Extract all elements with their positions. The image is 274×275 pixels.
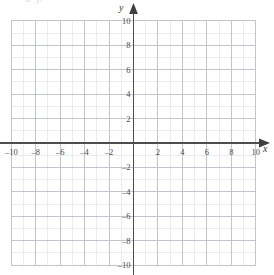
coordinate-plane: a p x y –10–8–6–4–2246810108642–2–4–6–8–…	[0, 0, 274, 275]
axis-lines	[0, 3, 270, 275]
y-axis-label: y	[119, 2, 123, 13]
x-axis-label: x	[263, 143, 267, 154]
x-tick-label: 4	[180, 147, 184, 157]
clipped-header-artifact: a p	[26, 0, 43, 4]
y-tick-label: –4	[122, 187, 131, 197]
y-tick-label: –10	[118, 260, 131, 270]
y-tick-label: 6	[126, 65, 130, 75]
x-tick-label: –4	[80, 147, 89, 157]
x-tick-label: 6	[205, 147, 209, 157]
x-tick-label: –8	[31, 147, 40, 157]
grid-and-axes-svg	[0, 0, 274, 275]
y-tick-label: –6	[122, 211, 131, 221]
y-tick-label: –2	[122, 162, 131, 172]
y-tick-label: 4	[126, 89, 130, 99]
y-tick-label: –8	[122, 236, 131, 246]
y-tick-label: 10	[122, 16, 131, 26]
x-tick-label: –2	[105, 147, 114, 157]
y-tick-label: 2	[126, 114, 130, 124]
y-axis-arrowhead	[129, 3, 138, 14]
x-tick-label: 2	[156, 147, 160, 157]
x-tick-label: 8	[229, 147, 233, 157]
x-tick-label: 10	[251, 147, 260, 157]
y-tick-label: 8	[126, 40, 130, 50]
x-tick-label: –10	[5, 147, 18, 157]
x-tick-label: –6	[56, 147, 65, 157]
